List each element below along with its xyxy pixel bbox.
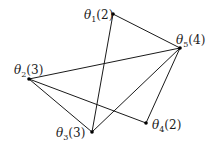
node-label-t4: θ4(2): [152, 118, 181, 134]
nodes-group: [27, 12, 182, 134]
edge-t1-t5: [113, 14, 180, 48]
node-label-t1: θ1(2): [84, 8, 113, 24]
edge-t2-t4: [29, 79, 146, 123]
node-t4: [144, 121, 148, 125]
node-t2: [27, 77, 31, 81]
node-label-t3: θ3(3): [56, 126, 85, 142]
edge-t2-t3: [29, 79, 92, 132]
edge-t4-t5: [146, 48, 180, 123]
node-t3: [90, 130, 94, 134]
edge-t2-t5: [29, 48, 180, 79]
labels-group: θ1(2)θ2(3)θ3(3)θ4(2)θ5(4): [14, 8, 205, 142]
node-label-t2: θ2(3): [14, 63, 43, 79]
node-label-t5: θ5(4): [176, 33, 205, 49]
edges-group: [29, 14, 180, 132]
weighted-graph-diagram: θ1(2)θ2(3)θ3(3)θ4(2)θ5(4): [0, 0, 212, 148]
